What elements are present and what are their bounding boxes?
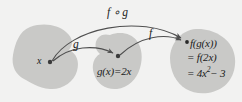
inner-map-label: g [73,39,79,51]
domain-set-blob [13,25,78,90]
result-line-1: f(g(x)) [190,38,217,49]
point-gx-dot [116,54,120,58]
point-x-dot [48,60,52,64]
intermediate-set-blob [93,33,142,89]
result-line-3-prefix: = 4x [187,67,207,79]
intermediate-value-label: g(x)=2x [97,66,131,77]
domain-point-label: x [37,56,41,66]
composition-label: f ∘ g [107,7,128,19]
outer-map-label: f [149,28,152,40]
result-line-3-suffix: − 3 [210,67,225,79]
point-fgx-dot [185,40,189,44]
result-line-3: = 4x2− 3 [187,66,225,79]
result-line-2: = f(2x) [187,52,217,63]
function-composition-diagram: f ∘ g g f x g(x)=2x f(g(x)) = f(2x) = 4x… [0,0,242,102]
